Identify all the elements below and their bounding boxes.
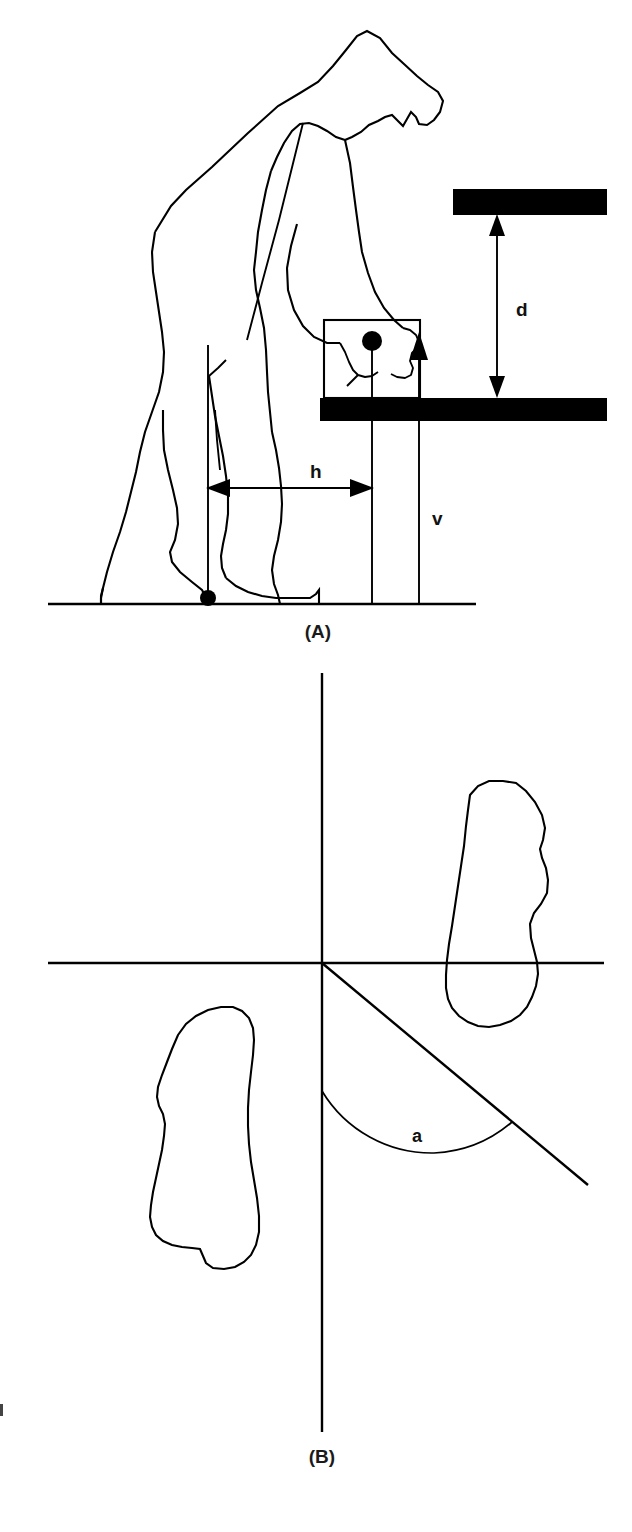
person-near-leg-back-outline — [209, 376, 228, 578]
load-arrowhead-up — [410, 332, 428, 360]
upper-shelf-bar — [453, 189, 607, 215]
table-surface-bar — [320, 398, 607, 421]
dimension-d-label: d — [516, 299, 528, 320]
left-foot-outline — [150, 1007, 259, 1269]
angle-a-label: a — [412, 1126, 423, 1146]
person-near-leg-front-outline — [272, 432, 282, 604]
panel-b-group: a (B) — [0, 673, 604, 1467]
panel-a-group: d v h (A) — [48, 31, 607, 642]
panel-a-caption: (A) — [305, 621, 331, 642]
person-near-arm-outer — [345, 140, 403, 328]
person-rear-leg-front — [163, 410, 206, 604]
person-finger-detail — [347, 375, 358, 386]
person-near-foot-outline — [226, 578, 319, 604]
figure-svg: d v h (A) — [0, 0, 632, 1532]
figure-root: d v h (A) — [0, 0, 632, 1532]
asymmetry-diagonal-line — [322, 963, 588, 1185]
dimension-h-arrowhead-right — [350, 479, 374, 497]
person-back-lower-outline — [101, 232, 164, 604]
person-torso-outline — [155, 31, 443, 232]
dimension-d-arrowhead-up — [489, 214, 505, 236]
person-hip-crease-line — [209, 360, 226, 376]
dimension-h-label: h — [310, 461, 322, 482]
person-far-arm-outline — [287, 224, 340, 343]
dimension-h-arrowhead-left — [206, 479, 230, 497]
panel-b-caption: (B) — [309, 1446, 335, 1467]
right-foot-outline — [446, 781, 548, 1027]
dimension-v-label: v — [432, 508, 443, 529]
person-rear-foot-outline — [101, 588, 103, 604]
person-neck-front-outline — [271, 123, 345, 171]
load-cog-dot — [362, 331, 382, 351]
dimension-d-arrowhead-down — [489, 376, 505, 398]
page-edge-artifact — [0, 1404, 3, 1416]
